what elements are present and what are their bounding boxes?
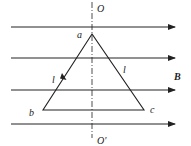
vertex-a-label: a	[77, 29, 82, 40]
side-left-label: l	[52, 74, 55, 85]
axis-bottom-label: O'	[97, 135, 107, 146]
diagram-canvas: O O' a b c l l B	[0, 0, 191, 146]
field-label: B	[173, 71, 181, 82]
side-right-label: l	[123, 64, 126, 75]
axis-top-label: O	[97, 3, 104, 14]
vertex-c-label: c	[150, 104, 155, 115]
triangle-coil	[43, 34, 144, 110]
vertex-b-label: b	[29, 107, 34, 118]
